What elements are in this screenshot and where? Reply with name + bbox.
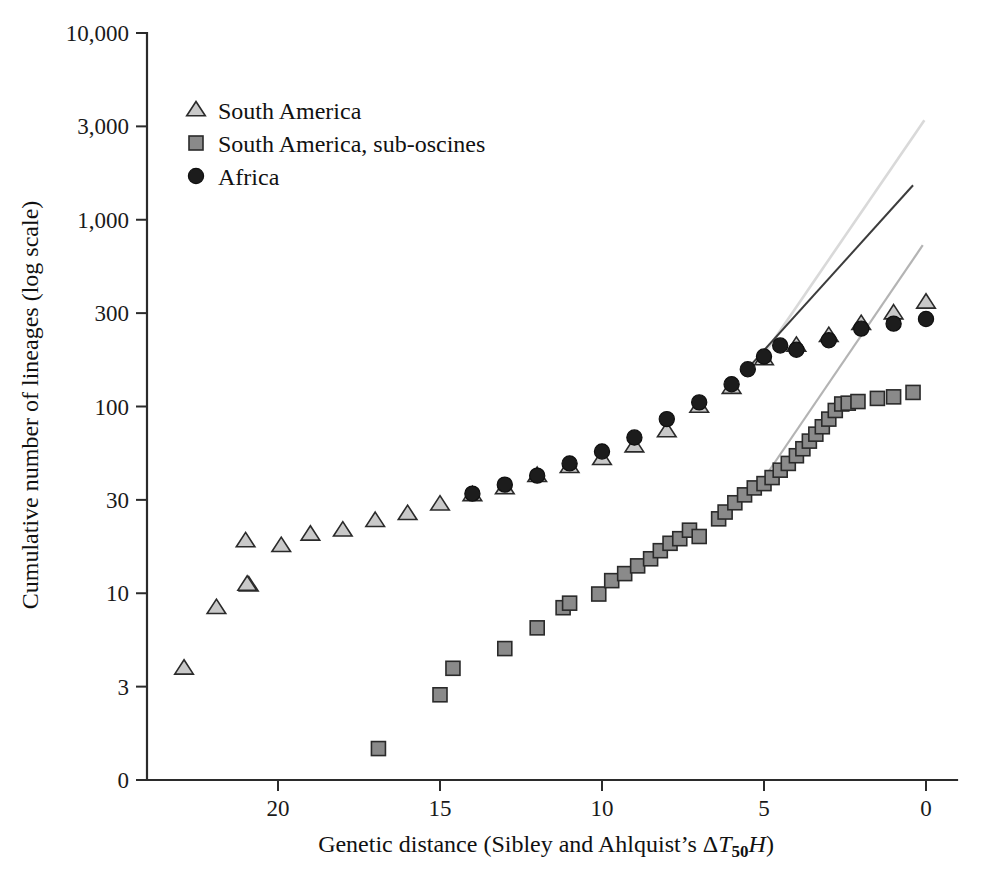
data-point-circle-2 — [530, 468, 545, 483]
data-point-square-0 — [371, 742, 385, 756]
data-point-circle-11 — [773, 338, 788, 353]
legend-label-2: Africa — [218, 164, 280, 190]
data-point-triangle-6 — [301, 526, 320, 540]
data-point-circle-13 — [821, 333, 836, 348]
y-tick-label-0: 0 — [118, 768, 130, 793]
data-series-group — [175, 294, 936, 756]
y-tick-label-3000: 3,000 — [77, 114, 129, 139]
sub-oscines-trend — [754, 245, 922, 492]
figure-container: 10,0003,0001,000300100301030 20151050 So… — [0, 0, 981, 883]
x-axis-title-subscript: 50 — [732, 842, 749, 861]
data-point-triangle-25 — [917, 294, 936, 308]
x-tick-label-0: 0 — [920, 796, 932, 821]
y-tick-label-10: 10 — [106, 581, 129, 606]
data-point-circle-0 — [465, 486, 480, 501]
data-point-circle-14 — [854, 321, 869, 336]
y-tick-label-1000: 1,000 — [77, 208, 129, 233]
data-point-square-6 — [563, 596, 577, 610]
y-tick-label-100: 100 — [95, 395, 130, 420]
data-point-square-8 — [605, 574, 619, 588]
y-tick-label-30: 30 — [106, 488, 129, 513]
data-point-square-4 — [530, 621, 544, 635]
data-point-square-7 — [592, 587, 606, 601]
data-point-triangle-7 — [334, 522, 353, 536]
data-point-square-3 — [498, 642, 512, 656]
y-axis-tick-labels: 10,0003,0001,000300100301030 — [66, 21, 129, 793]
legend-marker-square-icon — [189, 136, 203, 150]
y-tick-label-10000: 10,000 — [66, 21, 129, 46]
data-point-square-37 — [887, 390, 901, 404]
data-point-triangle-5 — [236, 532, 255, 546]
scatter-chart: 10,0003,0001,000300100301030 20151050 So… — [0, 0, 981, 883]
x-tick-label-10: 10 — [591, 796, 614, 821]
data-point-square-1 — [433, 688, 447, 702]
legend-item-south-america-sub-oscines[interactable]: South America, sub-oscines — [189, 131, 485, 157]
data-point-square-2 — [446, 661, 460, 675]
data-point-triangle-8 — [366, 512, 385, 526]
data-point-circle-12 — [789, 342, 804, 357]
x-tick-label-20: 20 — [267, 796, 290, 821]
data-point-square-10 — [631, 559, 645, 573]
series-south-america-sub-oscines — [371, 385, 920, 755]
data-point-circle-10 — [756, 349, 771, 364]
legend-marker-circle-icon — [188, 168, 203, 183]
data-point-circle-1 — [497, 477, 512, 492]
x-axis-title: Genetic distance (Sibley and Ahlquist’s … — [318, 831, 774, 861]
legend-item-africa[interactable]: Africa — [188, 164, 279, 190]
x-tick-label-5: 5 — [758, 796, 770, 821]
legend-label-1: South America, sub-oscines — [218, 131, 485, 157]
data-point-circle-8 — [724, 377, 739, 392]
data-point-square-36 — [870, 391, 884, 405]
data-point-square-9 — [618, 567, 632, 581]
data-point-circle-9 — [740, 362, 755, 377]
data-point-triangle-3 — [272, 537, 291, 551]
trend-lines-group — [749, 120, 924, 492]
data-point-triangle-0 — [175, 660, 194, 674]
data-point-circle-7 — [692, 395, 707, 410]
data-point-square-35 — [851, 395, 865, 409]
x-axis-title-delta-symbol: Δ — [703, 831, 718, 857]
y-axis-title: Cumulative number of lineages (log scale… — [17, 201, 43, 610]
y-tick-label-3: 3 — [118, 675, 130, 700]
data-point-circle-16 — [918, 311, 933, 326]
data-point-circle-6 — [659, 412, 674, 427]
data-point-triangle-1 — [207, 599, 226, 613]
legend-label-0: South America — [218, 98, 362, 124]
x-axis-title-h-symbol: H — [748, 831, 768, 857]
data-point-circle-3 — [562, 456, 577, 471]
legend-item-south-america[interactable]: South America — [187, 98, 362, 124]
data-point-triangle-10 — [431, 496, 450, 510]
x-axis-title-main: Genetic distance (Sibley and Ahlquist’s — [318, 831, 703, 857]
legend-marker-triangle-icon — [187, 101, 206, 115]
x-tick-label-15: 15 — [429, 796, 452, 821]
chart-legend: South AmericaSouth America, sub-oscinesA… — [187, 98, 486, 190]
data-point-circle-4 — [594, 444, 609, 459]
x-axis-tick-labels: 20151050 — [267, 796, 932, 821]
data-point-triangle-9 — [398, 505, 417, 519]
data-point-square-38 — [906, 385, 920, 399]
data-point-circle-15 — [886, 316, 901, 331]
y-tick-label-300: 300 — [95, 301, 130, 326]
x-axis-title-close-paren: ) — [766, 831, 774, 857]
svg-text:Genetic distance (Sibley and A: Genetic distance (Sibley and Ahlquist’s … — [318, 831, 774, 861]
data-point-circle-5 — [627, 430, 642, 445]
data-point-square-16 — [692, 529, 706, 543]
series-south-america — [175, 294, 936, 674]
